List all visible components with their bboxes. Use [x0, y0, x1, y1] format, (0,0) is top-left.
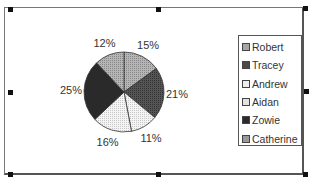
legend-swatch	[242, 116, 250, 124]
legend: RobertTraceyAndrewAidanZowieCatherine	[238, 35, 302, 146]
legend-label: Aidan	[252, 96, 279, 108]
legend-label: Catherine	[252, 133, 298, 145]
legend-swatch	[242, 98, 250, 106]
legend-item-andrew[interactable]: Andrew	[242, 77, 288, 91]
legend-label: Tracey	[252, 59, 284, 71]
data-label-aidan: 16%	[97, 136, 119, 148]
legend-label: Zowie	[252, 114, 280, 126]
data-label-zowie: 25%	[60, 84, 82, 96]
legend-swatch	[242, 80, 250, 88]
data-label-andrew: 11%	[140, 132, 161, 144]
data-label-catherine: 12%	[93, 37, 115, 49]
legend-item-robert[interactable]: Robert	[242, 40, 284, 54]
legend-item-zowie[interactable]: Zowie	[242, 113, 280, 127]
data-label-robert: 15%	[137, 39, 159, 51]
legend-swatch	[242, 61, 250, 69]
legend-label: Andrew	[252, 78, 288, 90]
legend-item-catherine[interactable]: Catherine	[242, 132, 298, 146]
data-label-tracey: 21%	[166, 88, 188, 100]
legend-swatch	[242, 135, 250, 143]
legend-item-tracey[interactable]: Tracey	[242, 58, 284, 72]
legend-swatch	[242, 43, 250, 51]
legend-item-aidan[interactable]: Aidan	[242, 95, 279, 109]
legend-label: Robert	[252, 41, 284, 53]
